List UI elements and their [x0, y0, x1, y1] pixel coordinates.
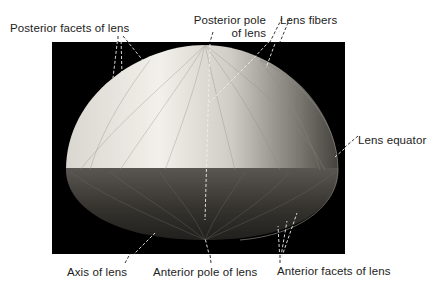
- label-anterior-facets: Anterior facets of lens: [277, 265, 391, 278]
- label-axis: Axis of lens: [67, 266, 127, 279]
- lens-diagram: Posterior facets of lens Posterior pole …: [0, 0, 443, 289]
- label-posterior-pole: Posterior pole of lens: [148, 14, 268, 40]
- label-lens-fibers: Lens fibers: [280, 14, 337, 27]
- label-posterior-facets: Posterior facets of lens: [10, 22, 129, 35]
- label-anterior-pole: Anterior pole of lens: [153, 266, 257, 279]
- label-posterior-pole-line1: Posterior pole: [148, 14, 268, 27]
- label-posterior-pole-line2: of lens: [148, 27, 268, 40]
- label-lens-equator: Lens equator: [358, 134, 426, 147]
